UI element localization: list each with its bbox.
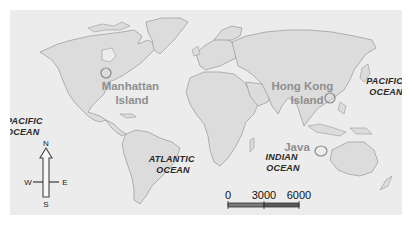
scale-tick-label-0: 0: [225, 189, 231, 201]
ocean-label-indian: INDIAN OCEAN: [266, 152, 301, 173]
ocean-label-pacific-east: PACIFIC OCEAN: [366, 76, 402, 97]
compass-label-south: S: [43, 200, 48, 209]
scale-tick-label-3000: 3000: [252, 189, 276, 201]
scale-bar-segment-2: [264, 203, 299, 207]
scale-tick-label-6000: 6000: [287, 189, 311, 201]
compass-label-west: W: [24, 178, 32, 187]
compass-label-north: N: [43, 139, 49, 148]
compass-label-east: E: [62, 178, 67, 187]
scale-unit-label: kilometres: [239, 213, 290, 215]
scale-bar-segment-1: [228, 203, 264, 207]
world-map: Manhattan Island Hong Kong Island Java P…: [10, 10, 402, 215]
